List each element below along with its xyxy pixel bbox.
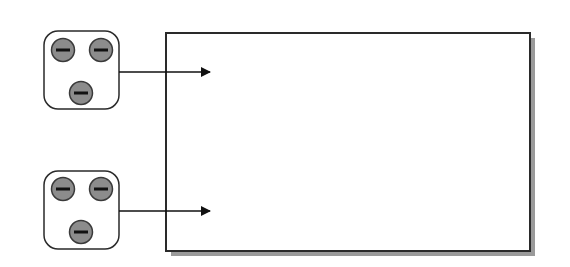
target-region: [166, 33, 535, 256]
negative-charge-icon: [90, 39, 113, 62]
negative-charge-icon: [52, 39, 75, 62]
negative-charge-icon: [90, 178, 113, 201]
charge-diagram: [0, 0, 570, 267]
region-box: [166, 33, 530, 251]
negative-charge-icon: [70, 82, 93, 105]
negative-charge-icon: [52, 178, 75, 201]
negative-charge-icon: [70, 221, 93, 244]
